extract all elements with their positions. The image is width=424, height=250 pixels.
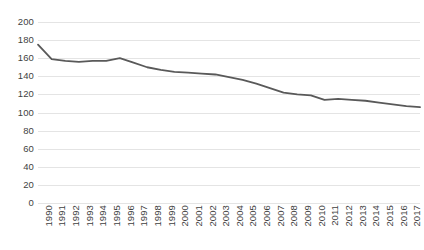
- x-axis-tick-label: 1991: [57, 205, 67, 247]
- x-axis-tick-label: 2006: [262, 205, 272, 247]
- y-axis-tick-label: 200: [0, 17, 34, 27]
- y-axis-tick-label: 20: [0, 180, 34, 190]
- x-axis-tick-label: 2013: [358, 205, 368, 247]
- x-axis-tick-label: 1993: [85, 205, 95, 247]
- x-axis-tick-label: 2002: [208, 205, 218, 247]
- y-axis-tick-labels: 020406080100120140160180200: [0, 0, 34, 250]
- x-axis-tick-label: 2014: [371, 205, 381, 247]
- x-axis-tick-label: 1992: [71, 205, 81, 247]
- x-axis-tick-label: 2012: [344, 205, 354, 247]
- x-axis-tick-label: 1996: [126, 205, 136, 247]
- x-axis-tick-label: 2017: [412, 205, 422, 247]
- x-axis-tick-label: 2016: [399, 205, 409, 247]
- gridline: [38, 203, 420, 204]
- x-axis-tick-label: 2000: [180, 205, 190, 247]
- x-axis-tick-label: 1997: [139, 205, 149, 247]
- x-axis-tick-label: 2007: [276, 205, 286, 247]
- x-axis-tick-label: 1998: [153, 205, 163, 247]
- x-axis-tick-label: 2015: [385, 205, 395, 247]
- x-axis-tick-label: 2001: [194, 205, 204, 247]
- x-axis-tick-label: 1995: [112, 205, 122, 247]
- y-axis-tick-label: 120: [0, 89, 34, 99]
- y-axis-tick-label: 60: [0, 144, 34, 154]
- y-axis-tick-label: 160: [0, 53, 34, 63]
- x-axis-tick-label: 2010: [317, 205, 327, 247]
- x-axis-tick-label: 1990: [44, 205, 54, 247]
- x-axis-tick-label: 1999: [167, 205, 177, 247]
- y-axis-tick-label: 80: [0, 126, 34, 136]
- x-axis-tick-label: 2009: [303, 205, 313, 247]
- y-axis-tick-label: 140: [0, 71, 34, 81]
- x-axis-tick-label: 2008: [289, 205, 299, 247]
- y-axis-tick-label: 100: [0, 108, 34, 118]
- plot-area: [38, 22, 420, 203]
- y-axis-tick-label: 180: [0, 35, 34, 45]
- x-axis-tick-label: 2004: [235, 205, 245, 247]
- data-series-line: [38, 22, 420, 203]
- x-axis-tick-label: 1994: [98, 205, 108, 247]
- y-axis-tick-label: 40: [0, 162, 34, 172]
- x-axis-tick-label: 2003: [221, 205, 231, 247]
- x-axis-tick-label: 2005: [248, 205, 258, 247]
- x-axis-tick-labels: 1990199119921993199419951996199719981999…: [38, 205, 420, 250]
- line-chart: 020406080100120140160180200 199019911992…: [0, 0, 424, 250]
- x-axis-tick-label: 2011: [330, 205, 340, 247]
- y-axis-tick-label: 0: [0, 198, 34, 208]
